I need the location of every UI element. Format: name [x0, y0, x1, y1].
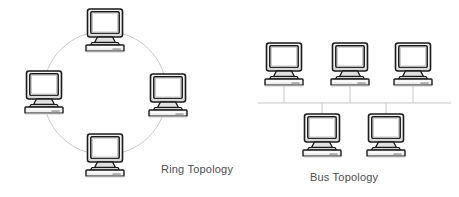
bus-node-bottom-right[interactable]	[367, 114, 405, 157]
topology-diagram-canvas: Ring Topology Bus Topology	[0, 0, 459, 197]
bus-node-top-center[interactable]	[331, 43, 369, 86]
bus-topology-group	[258, 43, 451, 157]
ring-node-bottom[interactable]	[86, 134, 124, 177]
bus-node-top-left[interactable]	[265, 43, 303, 86]
ring-node-left[interactable]	[25, 71, 63, 114]
ring-node-right[interactable]	[149, 74, 187, 117]
bus-topology-label: Bus Topology	[310, 171, 378, 183]
ring-topology-label: Ring Topology	[161, 163, 233, 175]
bus-node-bottom-left[interactable]	[303, 114, 341, 157]
ring-topology-group	[25, 9, 187, 177]
ring-node-top[interactable]	[86, 9, 124, 52]
bus-node-top-right[interactable]	[394, 43, 432, 86]
